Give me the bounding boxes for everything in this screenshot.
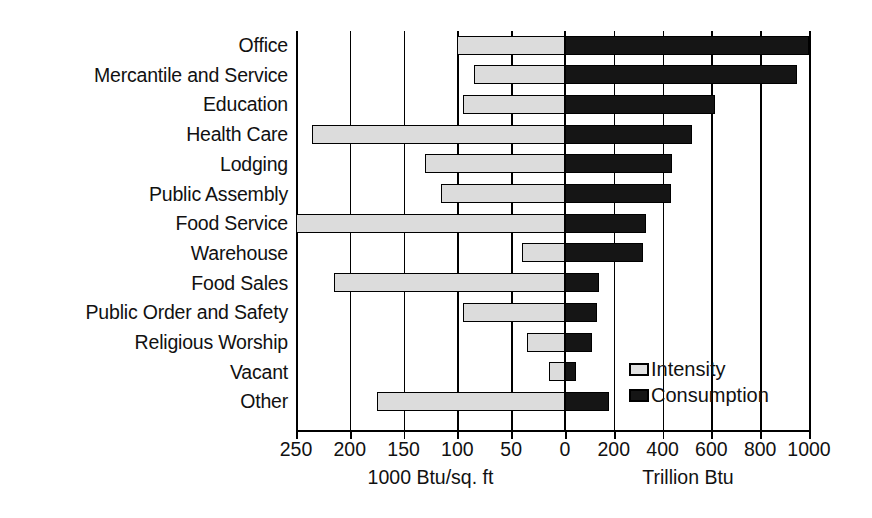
- chart-row: Food Sales: [0, 269, 872, 299]
- left-axis-100-tick-label: 100: [427, 438, 487, 461]
- category-label: Other: [0, 387, 288, 417]
- category-label: Public Order and Safety: [0, 298, 288, 328]
- plot-area: OfficeMercantile and ServiceEducationHea…: [0, 0, 872, 518]
- chart-row: Warehouse: [0, 239, 872, 269]
- bar-consumption: [565, 243, 643, 262]
- category-label: Health Care: [0, 120, 288, 150]
- category-label: Education: [0, 90, 288, 120]
- category-label: Warehouse: [0, 239, 288, 269]
- chart-container: OfficeMercantile and ServiceEducationHea…: [0, 0, 872, 518]
- chart-row: Health Care: [0, 120, 872, 150]
- chart-row: Mercantile and Service: [0, 61, 872, 91]
- bar-consumption: [565, 154, 672, 173]
- category-label: Public Assembly: [0, 180, 288, 210]
- bar-intensity: [463, 303, 565, 322]
- legend-swatch-icon-intensity: [629, 363, 649, 376]
- bar-intensity: [549, 362, 565, 381]
- chart-row: Public Assembly: [0, 180, 872, 210]
- left-axis-250-tick-label: 250: [266, 438, 326, 461]
- bar-intensity: [312, 125, 565, 144]
- right-axis-1000-tick-label: 1000: [779, 438, 839, 461]
- bar-intensity: [441, 184, 565, 203]
- bar-intensity: [334, 273, 565, 292]
- legend-item-consumption: Consumption: [629, 382, 769, 408]
- left-axis-200-tick-label: 200: [320, 438, 380, 461]
- bar-consumption: [565, 392, 609, 411]
- bar-intensity: [425, 154, 565, 173]
- bar-intensity: [522, 243, 565, 262]
- chart-row: Education: [0, 90, 872, 120]
- bar-consumption: [565, 95, 715, 114]
- chart-row: Religious Worship: [0, 328, 872, 358]
- category-label: Office: [0, 31, 288, 61]
- legend-label: Consumption: [651, 384, 769, 407]
- chart-row: Food Service: [0, 209, 872, 239]
- category-label: Lodging: [0, 150, 288, 180]
- bar-consumption: [565, 214, 646, 233]
- bar-intensity: [457, 36, 565, 55]
- bar-consumption: [565, 273, 599, 292]
- category-label: Food Sales: [0, 269, 288, 299]
- bar-consumption: [565, 362, 576, 381]
- bar-consumption: [565, 125, 692, 144]
- axis-baseline: [296, 430, 811, 432]
- chart-legend: IntensityConsumption: [629, 356, 769, 408]
- left-axis-150-tick-label: 150: [374, 438, 434, 461]
- chart-row: Lodging: [0, 150, 872, 180]
- left-axis-title: 1000 Btu/sq. ft: [296, 466, 565, 489]
- bar-intensity: [527, 333, 565, 352]
- right-axis-title: Trillion Btu: [565, 466, 811, 489]
- category-label: Vacant: [0, 358, 288, 388]
- legend-item-intensity: Intensity: [629, 356, 769, 382]
- bar-intensity: [377, 392, 565, 411]
- legend-label: Intensity: [651, 358, 725, 381]
- left-axis-50-tick-label: 50: [481, 438, 541, 461]
- bar-intensity: [463, 95, 565, 114]
- category-label: Food Service: [0, 209, 288, 239]
- chart-row: Public Order and Safety: [0, 298, 872, 328]
- category-label: Mercantile and Service: [0, 61, 288, 91]
- category-label: Religious Worship: [0, 328, 288, 358]
- bar-consumption: [565, 36, 809, 55]
- bar-consumption: [565, 65, 797, 84]
- bar-consumption: [565, 303, 597, 322]
- bar-intensity: [296, 214, 565, 233]
- bar-consumption: [565, 184, 671, 203]
- legend-swatch-icon-consumption: [629, 389, 649, 402]
- bar-intensity: [474, 65, 565, 84]
- chart-row: Office: [0, 31, 872, 61]
- bar-consumption: [565, 333, 592, 352]
